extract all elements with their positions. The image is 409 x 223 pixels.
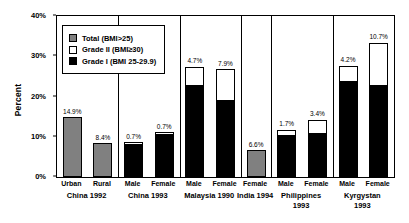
x-axis-group-label: India 1994 bbox=[237, 191, 273, 201]
y-axis-tick-40: 40% bbox=[31, 11, 51, 20]
bar-segment-grade-1 bbox=[369, 86, 388, 177]
bar-segment-grade-2 bbox=[155, 132, 174, 135]
x-axis-category-label: Male bbox=[186, 180, 202, 187]
legend-swatch-total-icon bbox=[69, 34, 77, 42]
bar-segment-grade-2 bbox=[369, 43, 388, 86]
bar-segment-total bbox=[247, 150, 266, 177]
x-axis-category-label: Female bbox=[243, 180, 267, 187]
legend-label-grade-2: Grade II (BMI≥30) bbox=[82, 45, 143, 54]
legend: Total (BMI>25) Grade II (BMI≥30) Grade I… bbox=[62, 25, 165, 74]
x-axis-category-label: Female bbox=[366, 180, 390, 187]
bar-china-1993-female: 0.7% bbox=[155, 132, 174, 177]
x-axis-group-label: Philippines1993 bbox=[281, 191, 321, 211]
bar-segment-grade-2 bbox=[308, 120, 327, 134]
group-label-line: Philippines bbox=[281, 191, 321, 201]
bar-value-label: 4.2% bbox=[341, 57, 356, 64]
group-label-line: Malaysia 1990 bbox=[184, 191, 234, 201]
bar-malaysia-1990-female: 7.9% bbox=[216, 69, 235, 177]
bar-china-1992-urban: 14.9% bbox=[63, 117, 82, 177]
group-label-line: 1993 bbox=[344, 201, 381, 211]
bar-segment-grade-1 bbox=[155, 135, 174, 177]
bar-value-label: 8.4% bbox=[96, 135, 111, 142]
group-label-line: Kyrgystan bbox=[344, 191, 381, 201]
bar-value-label: 10.7% bbox=[369, 34, 387, 41]
legend-label-total: Total (BMI>25) bbox=[82, 34, 133, 43]
legend-swatch-grade-1-icon bbox=[69, 57, 77, 65]
y-axis-tick-30: 30% bbox=[31, 51, 51, 60]
bar-value-label: 0.7% bbox=[126, 134, 141, 141]
bar-segment-grade-1 bbox=[124, 145, 143, 177]
bar-philippines-1993-male: 1.7% bbox=[277, 130, 296, 177]
x-axis-category-label: Urban bbox=[61, 180, 81, 187]
x-axis-category-label: Female bbox=[151, 180, 175, 187]
legend-swatch-grade-2-icon bbox=[69, 46, 77, 54]
x-axis-category-label: Male bbox=[278, 180, 294, 187]
bar-segment-grade-1 bbox=[216, 101, 235, 177]
bar-india-1994-female: 6.6% bbox=[247, 150, 266, 177]
group-separator bbox=[333, 16, 334, 177]
group-separator bbox=[241, 16, 242, 177]
legend-label-grade-1: Grade I (BMI 25-29.9) bbox=[82, 57, 156, 66]
bar-segment-grade-2 bbox=[216, 69, 235, 101]
x-axis-group-label: Kyrgystan1993 bbox=[344, 191, 381, 211]
bar-china-1992-rural: 8.4% bbox=[93, 143, 112, 177]
bar-value-label: 4.7% bbox=[187, 58, 202, 65]
bar-malaysia-1990-male: 4.7% bbox=[185, 67, 204, 177]
y-axis-tick-20: 20% bbox=[31, 91, 51, 100]
bar-kyrgystan-1993-male: 4.2% bbox=[339, 66, 358, 177]
legend-item-total: Total (BMI>25) bbox=[69, 34, 156, 43]
group-separator bbox=[180, 16, 181, 177]
x-axis-category-label: Male bbox=[339, 180, 355, 187]
y-axis-title: Percent bbox=[13, 60, 23, 140]
y-axis-tick-10: 10% bbox=[31, 131, 51, 140]
bar-segment-grade-1 bbox=[185, 86, 204, 177]
x-axis-category-label: Female bbox=[212, 180, 236, 187]
bar-china-1993-male: 0.7% bbox=[124, 142, 143, 177]
x-axis-category-label: Male bbox=[125, 180, 141, 187]
bar-segment-grade-1 bbox=[339, 82, 358, 177]
bar-segment-grade-1 bbox=[277, 136, 296, 177]
bar-value-label: 7.9% bbox=[218, 61, 233, 68]
x-axis-category-label: Female bbox=[304, 180, 328, 187]
bar-philippines-1993-female: 3.4% bbox=[308, 120, 327, 177]
bar-segment-grade-2 bbox=[277, 130, 296, 137]
bmi-overweight-bar-chart: Percent 14.9%8.4%0.7%0.7%4.7%7.9%6.6%1.7… bbox=[0, 0, 409, 223]
group-separator bbox=[271, 16, 272, 177]
group-label-line: China 1993 bbox=[128, 191, 168, 201]
bar-segment-grade-2 bbox=[124, 142, 143, 145]
bar-segment-grade-2 bbox=[339, 66, 358, 83]
bar-value-label: 3.4% bbox=[310, 111, 325, 118]
bar-segment-total bbox=[63, 117, 82, 177]
bar-segment-total bbox=[93, 143, 112, 177]
x-axis-group-label: China 1992 bbox=[67, 191, 107, 201]
legend-item-grade-1: Grade I (BMI 25-29.9) bbox=[69, 57, 156, 66]
group-label-line: India 1994 bbox=[237, 191, 273, 201]
group-label-line: China 1992 bbox=[67, 191, 107, 201]
group-label-line: 1993 bbox=[281, 201, 321, 211]
y-axis-tick-0: 0% bbox=[35, 172, 51, 181]
x-axis-group-label: China 1993 bbox=[128, 191, 168, 201]
bar-kyrgystan-1993-female: 10.7% bbox=[369, 43, 388, 177]
bar-value-label: 14.9% bbox=[63, 109, 81, 116]
bar-segment-grade-2 bbox=[185, 67, 204, 86]
bar-value-label: 1.7% bbox=[279, 121, 294, 128]
bar-segment-grade-1 bbox=[308, 134, 327, 177]
x-axis-group-label: Malaysia 1990 bbox=[184, 191, 234, 201]
x-axis-category-label: Rural bbox=[93, 180, 111, 187]
legend-item-grade-2: Grade II (BMI≥30) bbox=[69, 45, 156, 54]
bar-value-label: 6.6% bbox=[249, 142, 264, 149]
bar-value-label: 0.7% bbox=[157, 124, 172, 131]
